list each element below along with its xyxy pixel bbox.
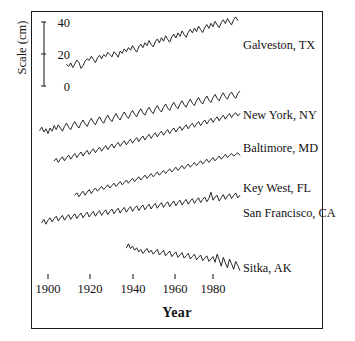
sea-level-plot [0,0,355,341]
scale-bar-ticks [41,22,46,86]
x-axis-ticks [48,274,213,279]
trace-new-york-ny [40,91,240,133]
series-traces [40,17,240,270]
trace-sitka-ak [126,244,239,270]
trace-baltimore-md [54,113,240,163]
trace-san-francisco-ca [42,192,240,224]
trace-galveston-tx [67,17,238,69]
trace-key-west-fl [75,153,240,197]
figure-root: Scale (cm) 40 20 0 1900 1920 1940 1960 1… [0,0,355,341]
